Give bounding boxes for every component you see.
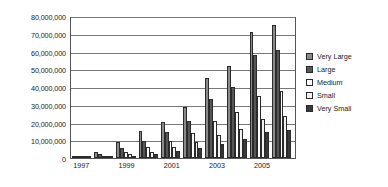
bar bbox=[110, 156, 114, 158]
legend-item[interactable]: Medium bbox=[306, 76, 378, 89]
bar-group bbox=[94, 18, 116, 158]
y-axis-tick: 20,000,000 bbox=[31, 119, 66, 128]
legend-swatch-icon bbox=[306, 79, 313, 86]
bar bbox=[221, 144, 225, 158]
x-axis-tick: 2003 bbox=[209, 161, 225, 170]
y-axis-tick: 0 bbox=[62, 155, 66, 164]
x-axis-tick: 1997 bbox=[73, 161, 89, 170]
bar bbox=[176, 151, 180, 158]
legend-swatch-icon bbox=[306, 92, 313, 99]
bar-group bbox=[139, 18, 161, 158]
y-axis-tick: 70,000,000 bbox=[31, 30, 66, 39]
bar-group bbox=[161, 18, 183, 158]
bar-groups bbox=[71, 18, 295, 158]
bar bbox=[132, 156, 136, 158]
y-axis-tick: 60,000,000 bbox=[31, 48, 66, 57]
y-axis-tick: 40,000,000 bbox=[31, 84, 66, 93]
legend-swatch-icon bbox=[306, 66, 313, 73]
bar bbox=[87, 156, 91, 158]
y-axis-tick: 30,000,000 bbox=[31, 101, 66, 110]
x-axis-tick-labels: 19971999200120032005 bbox=[70, 161, 296, 175]
bar-group bbox=[250, 18, 272, 158]
x-axis-tick: 1999 bbox=[119, 161, 135, 170]
y-axis-tick: 10,000,000 bbox=[31, 137, 66, 146]
bar bbox=[265, 132, 269, 158]
y-axis-tick: 80,000,000 bbox=[31, 13, 66, 22]
legend-item-label: Small bbox=[317, 91, 335, 100]
legend-item-label: Large bbox=[317, 65, 335, 74]
legend-item[interactable]: Very Small bbox=[306, 102, 378, 115]
bar bbox=[287, 130, 291, 158]
chart-legend: Very LargeLargeMediumSmallVery Small bbox=[303, 46, 381, 119]
legend-item[interactable]: Very Large bbox=[306, 50, 378, 63]
x-axis-tick: 2005 bbox=[254, 161, 270, 170]
legend-item-label: Medium bbox=[317, 78, 343, 87]
legend-item-label: Very Large bbox=[317, 52, 352, 61]
legend-item[interactable]: Large bbox=[306, 63, 378, 76]
bar-chart: 010,000,00020,000,00030,000,00040,000,00… bbox=[0, 0, 388, 187]
plot-area bbox=[70, 17, 296, 159]
bar bbox=[198, 148, 202, 158]
bar-group bbox=[227, 18, 249, 158]
bar bbox=[243, 139, 247, 158]
bar-group bbox=[183, 18, 205, 158]
legend-swatch-icon bbox=[306, 105, 313, 112]
legend-swatch-icon bbox=[306, 53, 313, 60]
bar-group bbox=[205, 18, 227, 158]
legend-item-label: Very Small bbox=[317, 104, 351, 113]
bar-group bbox=[116, 18, 138, 158]
bar bbox=[154, 154, 158, 158]
y-axis-tick-labels: 010,000,00020,000,00030,000,00040,000,00… bbox=[0, 0, 66, 187]
legend-item[interactable]: Small bbox=[306, 89, 378, 102]
x-axis-tick: 2001 bbox=[164, 161, 180, 170]
y-axis-tick: 50,000,000 bbox=[31, 66, 66, 75]
bar-group bbox=[272, 18, 294, 158]
bar-group bbox=[72, 18, 94, 158]
